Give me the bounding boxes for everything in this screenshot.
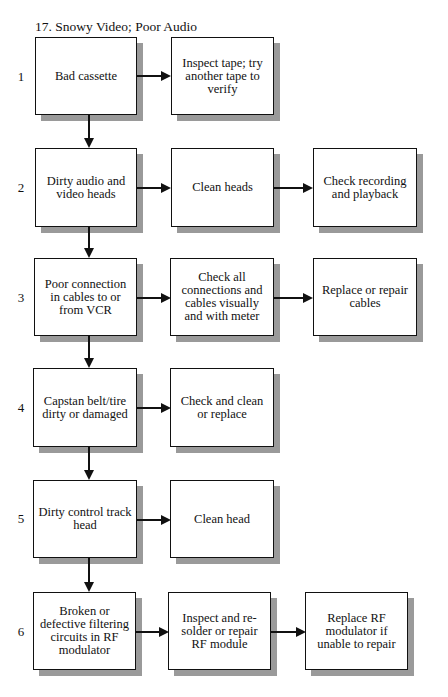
arrow-down-icon [84, 248, 94, 258]
cause-box: Dirty control track head [33, 480, 137, 558]
connector [88, 115, 90, 138]
step-text: Check all connections and cables visuall… [175, 271, 269, 323]
arrow-right-icon [161, 71, 171, 81]
step-text: Clean heads [192, 181, 253, 194]
cause-box: Dirty audio and video heads [35, 148, 137, 227]
row-number: 3 [15, 290, 27, 306]
cause-text: Bad cassette [55, 70, 117, 83]
connector [137, 519, 162, 521]
step-text: Check and clean or replace [175, 395, 269, 421]
arrow-down-icon [84, 470, 94, 480]
connector [137, 75, 162, 77]
cause-text: Poor connection in cables to or from VCR [39, 278, 132, 317]
arrow-down-icon [84, 138, 94, 148]
cause-box: Bad cassette [35, 37, 137, 115]
row-number: 4 [15, 400, 27, 416]
step-box: Check recording and playback [313, 148, 417, 227]
arrow-right-icon [161, 183, 171, 193]
cause-text: Broken or defective filtering circuits i… [38, 605, 131, 657]
row-number: 1 [15, 69, 27, 85]
arrow-down-icon [84, 582, 94, 592]
step-box: Clean head [170, 480, 274, 558]
step-box: Replace or repair cables [313, 258, 417, 336]
connector [274, 187, 304, 189]
arrow-right-icon [303, 293, 313, 303]
connector [137, 407, 162, 409]
step-box: Check all connections and cables visuall… [170, 258, 274, 336]
arrow-right-icon [303, 183, 313, 193]
arrow-down-icon [84, 358, 94, 368]
connector [274, 297, 304, 299]
step-text: Clean head [194, 513, 250, 526]
diagram-title: 17. Snowy Video; Poor Audio [35, 19, 197, 35]
row-number: 2 [15, 180, 27, 196]
connector [271, 631, 297, 633]
connector [137, 187, 162, 189]
step-box: Inspect and re-solder or repair RF modul… [168, 592, 271, 670]
row-number: 6 [15, 624, 27, 640]
cause-text: Capstan belt/tire dirty or damaged [38, 395, 132, 421]
cause-box: Capstan belt/tire dirty or damaged [33, 368, 137, 447]
row-number: 5 [15, 511, 27, 527]
step-text: Replace or repair cables [318, 284, 412, 310]
step-text: Inspect and re-solder or repair RF modul… [173, 612, 266, 651]
step-box: Clean heads [171, 148, 274, 227]
step-box: Replace RF modulator if unable to repair [305, 592, 408, 670]
cause-text: Dirty audio and video heads [40, 175, 132, 201]
connector [88, 558, 90, 582]
step-box: Inspect tape; try another tape to verify [171, 37, 274, 115]
cause-text: Dirty control track head [38, 506, 132, 532]
step-text: Inspect tape; try another tape to verify [176, 57, 269, 96]
connector [88, 447, 90, 470]
connector [88, 336, 90, 358]
connector [136, 631, 160, 633]
connector [88, 227, 90, 248]
step-text: Replace RF modulator if unable to repair [310, 612, 403, 651]
cause-box: Poor connection in cables to or from VCR [34, 258, 137, 336]
step-box: Check and clean or replace [170, 368, 274, 447]
connector [137, 297, 162, 299]
step-text: Check recording and playback [318, 175, 412, 201]
cause-box: Broken or defective filtering circuits i… [33, 592, 136, 670]
